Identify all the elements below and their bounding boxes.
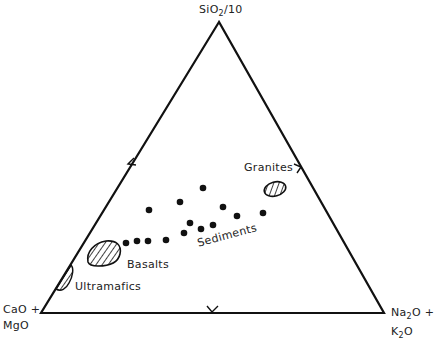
k2o-label: K2O xyxy=(391,325,434,342)
na2o-label: Na2O + xyxy=(391,306,434,323)
ultramafics-field xyxy=(56,265,73,290)
cao-label: CaO + xyxy=(3,303,40,316)
bottom-edge-tick-icon xyxy=(207,306,218,312)
basalts-label: Basalts xyxy=(127,258,169,271)
vertex-label-right: Na2O + K2O xyxy=(391,306,434,342)
sio2-base: SiO xyxy=(199,3,219,16)
granites-label: Granites xyxy=(244,161,293,174)
vertex-label-left: CaO + MgO xyxy=(3,303,40,332)
vertex-label-top: SiO2/10 xyxy=(199,3,243,20)
ultramafics-label: Ultramafics xyxy=(75,280,141,293)
sio2-divisor: /10 xyxy=(224,3,243,16)
basalts-field xyxy=(88,241,121,266)
ternary-triangle xyxy=(41,22,384,313)
mgo-label: MgO xyxy=(3,319,40,332)
granites-field xyxy=(263,179,288,198)
